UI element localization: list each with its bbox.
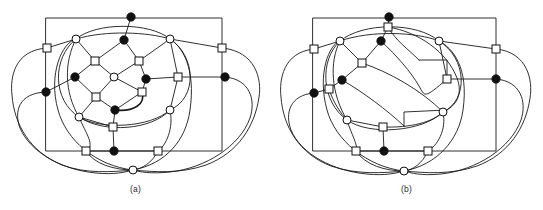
vertex-open-square [43, 44, 51, 52]
vertex-open-circle [129, 166, 137, 174]
outer-contour-inner-left-a [18, 92, 133, 174]
sweep-b2-b16 [388, 27, 459, 112]
vertex-open-square [352, 147, 360, 155]
vertex-open-square [82, 147, 90, 155]
edge-a18-a20 [79, 117, 113, 127]
vertex-open-circle [72, 35, 80, 43]
vertex-filled-circle [492, 75, 500, 83]
vertex-filled-circle [71, 73, 79, 81]
vertex-open-circle [343, 116, 351, 124]
vertex-open-circle [166, 106, 174, 114]
figure-panel-a: (a) [0, 0, 271, 210]
edge-a22-a24 [86, 151, 133, 170]
vertex-filled-circle [310, 89, 318, 97]
sweep-b8-b16 [362, 63, 443, 112]
vertex-open-square [424, 147, 432, 155]
vertex-open-square [325, 85, 333, 93]
ring-bottom-a [79, 110, 170, 125]
vertex-open-square [174, 73, 182, 81]
vertex-open-circle [166, 35, 174, 43]
vertex-open-square [310, 45, 318, 53]
vertex-open-square [379, 123, 387, 131]
vertex-open-square [154, 147, 162, 155]
edge-b15-b16 [383, 112, 443, 127]
graph-drawing-b [271, 0, 542, 210]
vertex-open-square [492, 45, 500, 53]
vertex-filled-circle [142, 75, 150, 83]
vertex-open-square [358, 59, 366, 67]
edge-a11-a12 [146, 77, 178, 79]
lens-right-b [404, 41, 464, 171]
vertex-open-square [384, 23, 392, 31]
panel-caption-b: (b) [271, 184, 542, 194]
vertex-open-square [138, 88, 146, 96]
vertex-open-circle [439, 108, 447, 116]
vertex-filled-circle [111, 106, 119, 114]
edge-a12-a19 [170, 77, 178, 110]
vertex-open-square [218, 44, 226, 52]
vertex-filled-circle [42, 88, 50, 96]
figure-root: (a) [0, 0, 543, 210]
edge-a4-a8 [139, 39, 170, 61]
vertex-open-circle [75, 113, 83, 121]
vertex-filled-circle [385, 13, 393, 21]
vertex-open-circle [435, 37, 443, 45]
edge-a19-a23 [158, 110, 171, 151]
edge-b17-b20 [356, 151, 404, 171]
vertex-filled-circle [110, 147, 118, 155]
graph-drawing-a [0, 0, 271, 210]
vertex-filled-circle [377, 37, 385, 45]
vertex-open-circle [400, 167, 408, 175]
inner-ring-top-b [340, 33, 439, 41]
vertex-open-square [135, 57, 143, 65]
vertex-open-square [109, 123, 117, 131]
outer-contour-inner-left-b [289, 93, 404, 175]
sweep-b2-inner-b [388, 27, 419, 60]
vertex-open-square [91, 57, 99, 65]
vertex-filled-circle [221, 73, 229, 81]
sweep-b3-b10 [381, 41, 447, 94]
vertex-filled-circle [127, 13, 135, 21]
vertex-filled-circle [338, 76, 346, 84]
vertex-open-circle [336, 37, 344, 45]
panel-caption-a: (a) [0, 184, 271, 194]
figure-panel-b: (b) [271, 0, 542, 210]
outer-contour-inner-right-a [133, 77, 252, 173]
outer-contour-right-a [133, 48, 260, 172]
edge-a6-a4 [170, 39, 222, 48]
vertex-filled-circle [120, 36, 128, 44]
vertex-open-circle [110, 73, 118, 81]
vertex-open-square [443, 75, 451, 83]
vertex-filled-circle [380, 147, 388, 155]
edge-a10-a14 [46, 77, 75, 92]
vertex-open-square [92, 93, 100, 101]
